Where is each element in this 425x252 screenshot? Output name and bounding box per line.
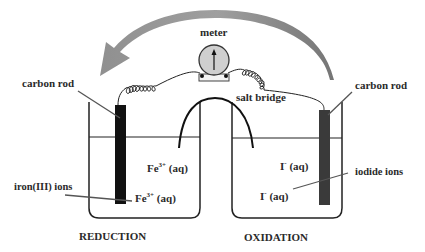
fe3-upper-label: Fe3+ (aq): [147, 163, 188, 174]
right-coiled-wire: [228, 69, 324, 110]
fe3-lower-label: Fe3+ (aq): [135, 193, 176, 204]
right-carbon-rod: [319, 110, 330, 205]
meter-label: meter: [200, 27, 227, 38]
left-carbon-rod: [115, 105, 126, 204]
electrochemical-cell-diagram: meter salt bridge carbon rod carbon rod …: [0, 0, 425, 252]
left-coiled-wire: [118, 72, 200, 105]
salt-bridge-tube: [179, 98, 253, 148]
iodide-ions-label: iodide ions: [355, 167, 403, 178]
iron-ions-label: iron(III) ions: [14, 182, 72, 193]
carbon-rod-right-label: carbon rod: [355, 80, 407, 91]
iodide-lower-label: I- (aq): [260, 191, 288, 202]
meter-icon: [199, 45, 229, 81]
oxidation-caption: OXIDATION: [244, 232, 308, 243]
left-rod-leader-line: [78, 91, 120, 118]
carbon-rod-left-label: carbon rod: [22, 78, 74, 89]
right-rod-leader-line: [328, 92, 352, 115]
reduction-caption: REDUCTION: [79, 231, 146, 242]
salt-bridge-label: salt bridge: [236, 92, 286, 103]
iodide-upper-label: I- (aq): [280, 161, 308, 172]
